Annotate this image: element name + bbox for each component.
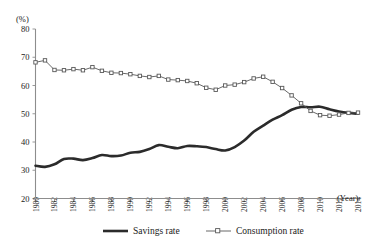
legend-label-consumption-rate: Consumption rate <box>236 226 304 236</box>
data-point-marker <box>337 113 340 116</box>
data-point-marker <box>224 84 227 87</box>
series-markers-consumption-rate <box>34 59 360 118</box>
data-point-marker <box>195 82 198 85</box>
data-point-marker <box>81 69 84 72</box>
savings-consumption-line-chart: (%) 20304050607080 198019821984198619881… <box>0 0 382 249</box>
y-axis-tick-label: 70 <box>21 52 30 62</box>
data-point-marker <box>53 68 56 71</box>
data-point-marker <box>309 109 312 112</box>
data-point-marker <box>328 114 331 117</box>
data-point-marker <box>43 59 46 62</box>
data-point-marker <box>347 111 350 114</box>
legend-label-savings-rate: Savings rate <box>133 226 180 236</box>
data-point-marker <box>119 71 122 74</box>
data-point-marker <box>148 75 151 78</box>
data-point-marker <box>62 69 65 72</box>
chart-figure: (%) 20304050607080 198019821984198619881… <box>0 0 382 249</box>
y-axis-unit-label: (%) <box>16 14 29 24</box>
data-point-marker <box>356 111 359 114</box>
data-point-marker <box>138 74 141 77</box>
y-axis-tick-labels: 20304050607080 <box>21 24 36 204</box>
series-line-savings-rate <box>36 107 359 167</box>
data-point-marker <box>280 86 283 89</box>
data-point-marker <box>129 73 132 76</box>
data-point-marker <box>186 79 189 82</box>
legend: Savings rate Consumption rate <box>103 226 304 236</box>
data-point-marker <box>233 83 236 86</box>
legend-marker-consumption-rate <box>216 229 220 233</box>
data-point-marker <box>318 113 321 116</box>
data-point-marker <box>176 78 179 81</box>
y-axis-tick-label: 40 <box>21 137 30 147</box>
data-point-marker <box>157 74 160 77</box>
data-point-marker <box>205 86 208 89</box>
data-point-marker <box>261 75 264 78</box>
x-axis-unit-label: (Year) <box>337 193 358 203</box>
data-point-marker <box>34 61 37 64</box>
y-axis-tick-label: 30 <box>21 165 30 175</box>
data-point-marker <box>271 80 274 83</box>
data-point-marker <box>214 88 217 91</box>
data-point-marker <box>299 102 302 105</box>
data-point-marker <box>252 77 255 80</box>
data-point-marker <box>91 65 94 68</box>
data-point-marker <box>110 71 113 74</box>
data-point-marker <box>167 78 170 81</box>
data-point-marker <box>100 69 103 72</box>
y-axis-tick-label: 50 <box>21 109 30 119</box>
data-point-marker <box>242 80 245 83</box>
data-point-marker <box>290 94 293 97</box>
y-axis-tick-label: 80 <box>21 24 30 34</box>
y-axis-tick-label: 60 <box>21 81 30 91</box>
data-point-marker <box>72 67 75 70</box>
y-axis-tick-label: 20 <box>21 194 30 204</box>
